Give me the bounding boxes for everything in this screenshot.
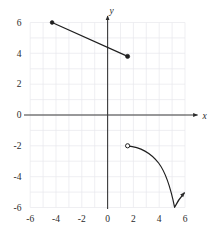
graph-figure: x y -6 -4 -2 0 2 4 6 6 4 2 0 -2 -4 -6 xyxy=(0,0,220,231)
coordinate-plane-plot: x y -6 -4 -2 0 2 4 6 6 4 2 0 -2 -4 -6 xyxy=(0,0,220,231)
y-tick-label: -2 xyxy=(14,141,22,151)
y-axis-label: y xyxy=(108,6,114,16)
closed-dot-left-endpoint xyxy=(50,21,54,25)
x-tick-label: -6 xyxy=(26,214,34,224)
x-tick-label: -2 xyxy=(78,214,86,224)
x-tick-label: 4 xyxy=(157,214,162,224)
x-tick-label: 6 xyxy=(183,214,188,224)
line-segment xyxy=(52,23,128,57)
x-tick-labels: -6 -4 -2 0 2 4 6 xyxy=(26,214,187,224)
x-tick-label: 0 xyxy=(105,214,110,224)
y-tick-labels: 6 4 2 0 -2 -4 -6 xyxy=(14,18,22,213)
y-tick-label: -6 xyxy=(14,203,22,213)
y-tick-label: 2 xyxy=(17,79,22,89)
y-tick-label: 0 xyxy=(17,110,22,120)
y-tick-label: -4 xyxy=(14,172,22,182)
x-tick-label: 2 xyxy=(131,214,136,224)
x-axis-label: x xyxy=(201,111,207,121)
closed-dot-right-endpoint xyxy=(126,54,130,58)
axes xyxy=(24,16,198,209)
y-tick-label: 6 xyxy=(17,18,22,28)
y-tick-label: 4 xyxy=(17,49,22,59)
open-dot-curve-start xyxy=(126,144,130,148)
x-tick-label: -4 xyxy=(52,214,60,224)
line-segment-series xyxy=(50,21,130,59)
curve-series xyxy=(126,144,185,208)
